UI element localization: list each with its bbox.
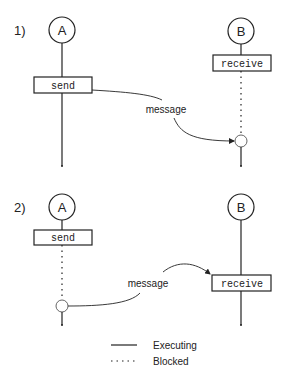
process-a-end-dot (61, 165, 63, 167)
legend-blocked-label: Blocked (153, 356, 189, 367)
receive-call-label: receive (221, 279, 263, 290)
panel-1-label: 1) (14, 23, 26, 38)
message-arrow-part-2 (174, 118, 234, 141)
panel-2-process-b: B receive (212, 194, 271, 326)
process-b-end-dot (240, 165, 242, 167)
message-label: message (146, 104, 187, 115)
receive-call-label: receive (221, 59, 263, 70)
panel-1-process-a: A send (34, 17, 92, 167)
process-a-wakeup-circle-icon (56, 300, 68, 312)
panel-2: 2) A send B receive message (14, 194, 271, 326)
process-a-name: A (58, 200, 67, 215)
process-a-name: A (58, 23, 67, 38)
message-label: message (128, 278, 169, 289)
process-b-name: B (237, 200, 246, 215)
message-arrow-part-1 (92, 90, 162, 100)
process-b-wakeup-circle-icon (235, 135, 247, 147)
panel-1-process-b: B receive (213, 18, 271, 167)
message-passing-diagram: 1) A send B receive message (0, 0, 284, 381)
send-call-label: send (51, 81, 75, 92)
process-a-end-dot (61, 324, 63, 326)
panel-1: 1) A send B receive message (14, 17, 271, 167)
process-b-name: B (237, 24, 246, 39)
message-arrow-part-2 (163, 264, 210, 274)
panel-2-label: 2) (14, 200, 26, 215)
legend: Executing Blocked (111, 340, 197, 367)
message-arrow-part-1 (68, 293, 140, 306)
process-b-end-dot (240, 324, 242, 326)
send-call-label: send (51, 233, 75, 244)
legend-executing-label: Executing (153, 340, 197, 351)
